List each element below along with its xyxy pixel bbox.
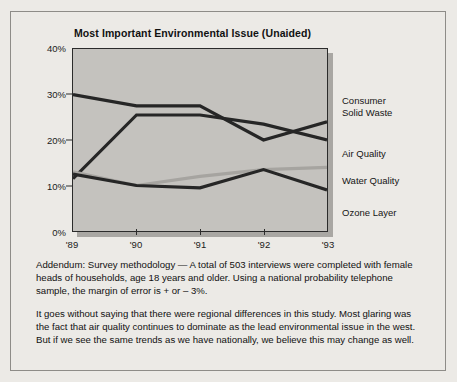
x-tick-mark (136, 229, 137, 235)
y-tick-label: 0% (0, 227, 66, 238)
legend-item-water-quality: Water Quality (342, 175, 399, 187)
legend-item-air-quality: Air Quality (342, 148, 386, 160)
x-tick-label: '92 (258, 239, 270, 250)
x-tick-label: '91 (194, 239, 206, 250)
y-tick-label: 30% (0, 89, 66, 100)
chart-title: Most Important Environmental Issue (Unai… (74, 27, 311, 39)
y-tick-label: 20% (0, 135, 66, 146)
x-tick-mark (264, 229, 265, 235)
x-tick-mark (200, 229, 201, 235)
y-tick-label: 10% (0, 181, 66, 192)
series-line (73, 95, 327, 141)
legend-item-ozone-layer: Ozone Layer (342, 207, 396, 219)
x-tick-label: '89 (66, 239, 78, 250)
y-tick-label: 40% (0, 43, 66, 54)
x-axis: '89'90'91'92'93 (72, 236, 328, 256)
x-tick-label: '93 (322, 239, 334, 250)
series-line (73, 170, 327, 190)
commentary-text: It goes without saying that there were r… (36, 307, 426, 347)
chart-legend: Consumer Solid WasteAir QualityWater Qua… (342, 48, 447, 233)
exhibit-page: Most Important Environmental Issue (Unai… (0, 0, 457, 382)
y-axis: 40%30%20%10%0% (0, 40, 66, 242)
x-tick-label: '90 (130, 239, 142, 250)
plot-lines (73, 49, 327, 231)
chart-container: Most Important Environmental Issue (Unai… (0, 0, 457, 258)
addendum-text: Addendum: Survey methodology — A total o… (36, 258, 422, 298)
legend-item-consumer-solid-waste: Consumer Solid Waste (342, 95, 392, 118)
plot-area (72, 48, 328, 232)
